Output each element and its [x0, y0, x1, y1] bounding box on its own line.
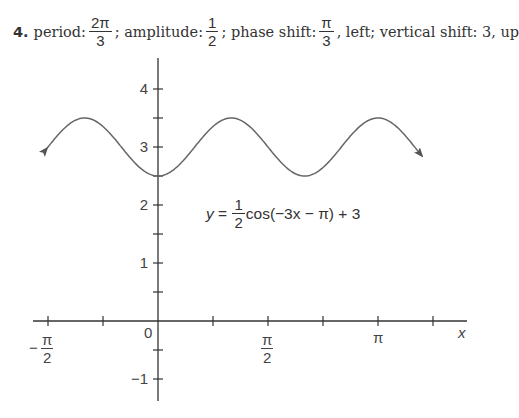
x-axis-label: x — [457, 324, 466, 341]
equation-label: y = 1 2 cos(−3x − π) + 3 — [206, 196, 360, 231]
y-tick-label: 1 — [140, 254, 148, 271]
y-tick-label: 4 — [140, 80, 148, 97]
x-tick-label: π — [373, 329, 383, 346]
x-tick-label: π2 — [41, 331, 53, 366]
x-tick-label: π2 — [261, 331, 273, 366]
y-tick-label: 2 — [140, 196, 148, 213]
y-tick-label: −1 — [131, 370, 148, 387]
x-tick-label-minus: − — [29, 339, 38, 356]
y-tick-label: 3 — [140, 138, 148, 155]
x-tick-label-origin: 0 — [144, 324, 152, 341]
cosine-curve — [47, 118, 422, 176]
